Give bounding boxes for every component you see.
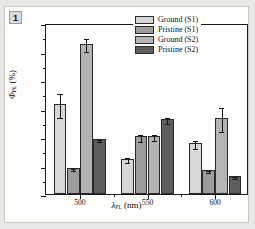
legend-swatch bbox=[135, 36, 154, 45]
error-bar bbox=[141, 135, 142, 142]
error-bar-cap-lower bbox=[71, 171, 76, 172]
y-axis-minor-tick bbox=[43, 125, 46, 126]
x-axis-minor-tick bbox=[114, 194, 115, 197]
x-axis-tick-label: 550 bbox=[128, 198, 168, 207]
legend-item[interactable]: Ground (S2) bbox=[135, 35, 198, 45]
error-bar bbox=[86, 39, 87, 52]
error-bar-cap-lower bbox=[193, 149, 198, 150]
error-bar-cap-lower bbox=[232, 179, 237, 180]
y-axis-minor-tick bbox=[43, 96, 46, 97]
y-axis-tick bbox=[41, 54, 46, 55]
y-axis-minor-tick bbox=[43, 182, 46, 183]
error-bar-cap-upper bbox=[219, 108, 224, 109]
bar bbox=[161, 119, 174, 194]
error-bar-cap-lower bbox=[138, 142, 143, 143]
legend-label: Pristine (S1) bbox=[158, 25, 198, 35]
error-bar bbox=[60, 94, 61, 118]
y-axis-tick bbox=[41, 196, 46, 197]
error-bar-cap-upper bbox=[125, 158, 130, 159]
legend-label: Pristine (S2) bbox=[158, 45, 198, 55]
bar bbox=[93, 139, 106, 194]
error-bar-cap-upper bbox=[57, 94, 62, 95]
legend-item[interactable]: Pristine (S2) bbox=[135, 45, 198, 55]
error-bar-cap-lower bbox=[165, 124, 170, 125]
bar bbox=[135, 136, 148, 194]
bar bbox=[148, 136, 161, 194]
x-axis-subscript: PL bbox=[115, 204, 121, 210]
x-axis-tick-label: 600 bbox=[195, 198, 235, 207]
y-axis-minor-tick bbox=[43, 68, 46, 69]
y-axis-tick bbox=[41, 139, 46, 140]
bar bbox=[189, 143, 202, 194]
legend-label: Ground (S1) bbox=[158, 15, 198, 25]
legend-swatch bbox=[135, 26, 154, 35]
x-axis-tick-label: 500 bbox=[60, 198, 100, 207]
error-bar-cap-lower bbox=[219, 132, 224, 133]
error-bar-cap-upper bbox=[97, 140, 102, 141]
error-bar-cap-lower bbox=[57, 118, 62, 119]
y-axis-tick bbox=[41, 168, 46, 169]
error-bar-cap-upper bbox=[165, 118, 170, 119]
error-bar-cap-lower bbox=[97, 142, 102, 143]
legend-label: Ground (S2) bbox=[158, 35, 198, 45]
error-bar bbox=[195, 141, 196, 149]
error-bar-cap-lower bbox=[125, 163, 130, 164]
y-axis-tick bbox=[41, 25, 46, 26]
y-axis-symbol: Φ bbox=[7, 92, 17, 99]
bar bbox=[80, 44, 93, 194]
y-axis-minor-tick bbox=[43, 153, 46, 154]
error-bar-cap-lower bbox=[152, 141, 157, 142]
legend-item[interactable]: Pristine (S1) bbox=[135, 25, 198, 35]
error-bar-cap-upper bbox=[193, 141, 198, 142]
error-bar-cap-upper bbox=[84, 39, 89, 40]
y-axis-unit: (%) bbox=[7, 70, 17, 84]
legend-item[interactable]: Ground (S1) bbox=[135, 15, 198, 25]
y-axis-tick bbox=[41, 82, 46, 83]
y-axis-title: ΦPL (%) bbox=[7, 70, 17, 99]
figure-card: 1 ΦPL (%) λPL (nm) 051015202530500550600… bbox=[4, 6, 249, 223]
error-bar-cap-upper bbox=[152, 135, 157, 136]
x-axis-minor-tick bbox=[181, 194, 182, 197]
error-bar-cap-upper bbox=[138, 135, 143, 136]
chart-legend: Ground (S1)Pristine (S1)Ground (S2)Prist… bbox=[133, 13, 201, 57]
panel-badge: 1 bbox=[9, 11, 22, 24]
error-bar-cap-upper bbox=[71, 169, 76, 170]
error-bar-cap-lower bbox=[206, 173, 211, 174]
error-bar bbox=[222, 108, 223, 132]
y-axis-subscript: PL bbox=[11, 86, 17, 92]
legend-swatch bbox=[135, 16, 154, 25]
error-bar-cap-lower bbox=[84, 52, 89, 53]
y-axis-minor-tick bbox=[43, 39, 46, 40]
y-axis-tick bbox=[41, 111, 46, 112]
legend-swatch bbox=[135, 46, 154, 55]
